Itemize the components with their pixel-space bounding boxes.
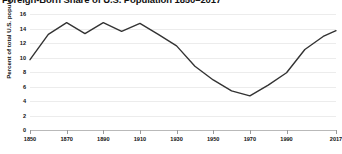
x-axis-tick-label: 1950 bbox=[207, 136, 219, 142]
chart-title: Foreign-Born Share of U.S. Population 18… bbox=[2, 0, 336, 6]
x-axis-tick-label: 1970 bbox=[244, 136, 256, 142]
x-axis-tick-label: 1990 bbox=[280, 136, 292, 142]
x-axis-tick-mark bbox=[213, 130, 214, 134]
x-axis-tick-mark bbox=[177, 130, 178, 134]
y-axis-tick-label: 0 bbox=[23, 127, 26, 133]
x-axis-tick-mark bbox=[140, 130, 141, 134]
x-axis-tick-mark bbox=[336, 130, 337, 134]
x-axis-tick-mark bbox=[103, 130, 104, 134]
y-axis-tick-label: 6 bbox=[23, 84, 26, 90]
y-axis-tick-label: 10 bbox=[20, 55, 26, 61]
y-axis-label: Percent of total U.S. population bbox=[5, 0, 12, 86]
data-series-line bbox=[30, 14, 336, 130]
x-axis-tick-mark bbox=[287, 130, 288, 134]
y-axis-tick-label: 12 bbox=[20, 40, 26, 46]
plot-area: 0246810121416 18501870189019101930195019… bbox=[30, 14, 336, 130]
x-axis-tick-mark bbox=[67, 130, 68, 134]
y-axis-tick-label: 2 bbox=[23, 113, 26, 119]
x-axis-tick-mark bbox=[30, 130, 31, 134]
y-axis-tick-label: 4 bbox=[23, 98, 26, 104]
y-axis-tick-label: 8 bbox=[23, 69, 26, 75]
x-axis-tick-label: 1930 bbox=[170, 136, 182, 142]
x-axis-tick-label: 1850 bbox=[24, 136, 36, 142]
x-axis-tick-label: 1870 bbox=[60, 136, 72, 142]
x-axis-tick-label: 2017 bbox=[330, 136, 342, 142]
x-axis-tick-label: 1910 bbox=[134, 136, 146, 142]
y-axis-tick-label: 16 bbox=[20, 11, 26, 17]
x-axis-tick-mark bbox=[250, 130, 251, 134]
y-axis-tick-label: 14 bbox=[20, 26, 26, 32]
x-axis-tick-label: 1890 bbox=[97, 136, 109, 142]
gridline bbox=[30, 130, 336, 131]
